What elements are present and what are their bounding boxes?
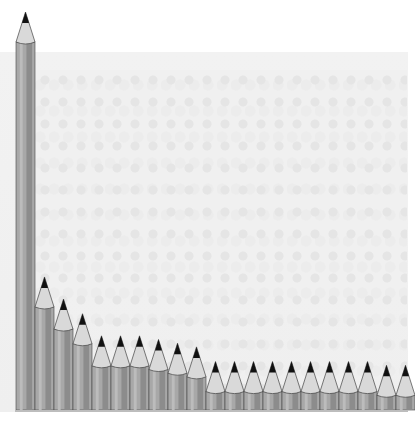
pencil-bar [35, 277, 54, 410]
pencil-bar [130, 336, 149, 410]
pencil-bar [320, 362, 339, 410]
pencil-bar [92, 336, 111, 410]
pencil-bar [73, 314, 92, 410]
pencil-bar [396, 365, 415, 410]
pencil-bar [358, 362, 377, 410]
pencil-bar [339, 362, 358, 410]
pencil-bar [54, 299, 73, 410]
pencil-bar [244, 362, 263, 410]
x-axis-baseline [15, 410, 408, 412]
pencil-bar [149, 340, 168, 410]
pencil-bar [282, 362, 301, 410]
pencil-bar [377, 365, 396, 410]
pencil-bar [263, 362, 282, 410]
pencil-bar [16, 12, 35, 410]
pencil-bar [111, 336, 130, 410]
pencil-bar [225, 362, 244, 410]
pencil-bar [301, 362, 320, 410]
pencil-bar [206, 362, 225, 410]
pencil-bar [187, 347, 206, 410]
pencil-bar [168, 343, 187, 410]
pencil-bar-chart [0, 0, 415, 429]
